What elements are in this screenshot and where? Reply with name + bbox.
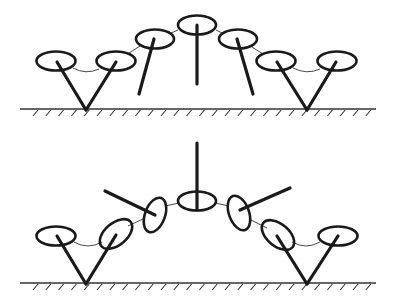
hatch-mark: [161, 284, 166, 290]
link: [293, 68, 320, 72]
upper-figure: [20, 16, 376, 117]
hatch-mark: [71, 110, 76, 116]
hatch-mark: [289, 110, 294, 116]
hatch-mark: [315, 284, 320, 290]
hatch-mark: [251, 284, 256, 290]
hatch-mark: [110, 110, 115, 116]
hatch-mark: [199, 110, 204, 116]
hatch-mark: [225, 284, 230, 290]
hatch-mark: [123, 110, 128, 116]
hatch-mark: [353, 284, 358, 290]
link: [216, 30, 222, 33]
hatch-mark: [135, 284, 140, 290]
hatch-mark: [59, 110, 64, 116]
hatch-mark: [263, 110, 268, 116]
lower-figure: [20, 143, 376, 290]
hatch-mark: [148, 110, 153, 116]
leg: [277, 236, 307, 284]
hatch-mark: [33, 284, 38, 290]
hatch-mark: [46, 110, 51, 116]
hatch-mark: [212, 110, 217, 116]
hatch-mark: [71, 284, 76, 290]
ground-hatching: [33, 110, 371, 116]
hatch-mark: [366, 110, 371, 116]
link: [252, 47, 263, 54]
hatch-mark: [238, 110, 243, 116]
robot-mechanism-diagram: [0, 0, 396, 307]
hatch-mark: [97, 284, 102, 290]
hatch-mark: [340, 284, 345, 290]
hatch-mark: [97, 110, 102, 116]
link: [292, 242, 320, 246]
hatch-mark: [353, 110, 358, 116]
hatch-mark: [327, 284, 332, 290]
hatch-mark: [33, 110, 38, 116]
hatch-mark: [161, 110, 166, 116]
hatch-mark: [187, 284, 192, 290]
hatch-mark: [59, 284, 64, 290]
joint-ellipse: [223, 193, 254, 234]
hatch-mark: [110, 284, 115, 290]
upper-legs: [57, 25, 336, 110]
link: [129, 46, 140, 53]
hatch-mark: [148, 284, 153, 290]
hatch-mark: [251, 110, 256, 116]
hatch-mark: [366, 284, 371, 290]
leg: [105, 191, 155, 215]
hatch-mark: [225, 110, 230, 116]
hatch-mark: [289, 284, 294, 290]
hatch-mark: [199, 284, 204, 290]
upper-ground: [20, 109, 376, 116]
hatch-mark: [327, 110, 332, 116]
hatch-mark: [123, 284, 128, 290]
hatch-mark: [238, 284, 243, 290]
link: [171, 30, 178, 33]
lower-legs: [57, 143, 338, 284]
link: [73, 68, 99, 72]
hatch-mark: [46, 284, 51, 290]
hatch-mark: [276, 110, 281, 116]
hatch-mark: [212, 284, 217, 290]
ground-hatching: [33, 284, 371, 290]
hatch-mark: [135, 110, 140, 116]
link: [74, 242, 102, 246]
lower-ground: [20, 283, 376, 290]
hatch-mark: [276, 284, 281, 290]
hatch-mark: [340, 110, 345, 116]
hatch-mark: [187, 110, 192, 116]
hatch-mark: [315, 110, 320, 116]
hatch-mark: [174, 284, 179, 290]
hatch-mark: [174, 110, 179, 116]
hatch-mark: [263, 284, 268, 290]
